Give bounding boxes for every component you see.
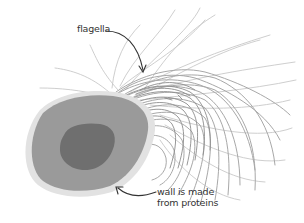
flagella-label: flagella	[77, 23, 110, 34]
cell-body	[26, 91, 156, 197]
wall-label-line1: wall is made	[157, 186, 218, 197]
flagella-arrow	[106, 31, 143, 70]
wall-label: wall is made from proteins	[157, 186, 218, 208]
wall-label-line2: from proteins	[157, 197, 218, 208]
wall-arrow	[118, 188, 156, 195]
cell-diagram	[0, 0, 304, 223]
